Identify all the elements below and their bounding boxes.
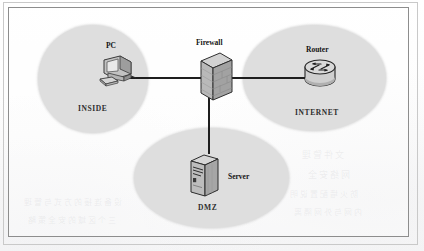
zone-label-dmz: DMZ	[198, 203, 217, 212]
zone-label-inside: INSIDE	[78, 104, 107, 113]
zone-label-internet: INTERNET	[295, 108, 339, 117]
node-label-firewall: Firewall	[196, 38, 223, 47]
diagram-page: 文件管理 网络安全 防火墙配置说明 内网与外网隔离 设备连接的方式与管理 三个区…	[0, 0, 424, 251]
node-label-server: Server	[228, 172, 249, 181]
router-cylinder-icon	[302, 58, 338, 90]
node-firewall[interactable]	[198, 51, 236, 103]
node-server[interactable]	[188, 153, 224, 199]
node-label-pc: PC	[106, 41, 116, 50]
link-pc-firewall	[129, 77, 202, 79]
link-firewall-router	[231, 77, 311, 79]
firewall-brick-wall-icon	[198, 51, 236, 103]
node-router[interactable]	[302, 58, 338, 90]
desktop-computer-icon	[98, 54, 136, 88]
node-label-router: Router	[306, 45, 329, 54]
node-pc[interactable]	[98, 54, 136, 88]
server-tower-icon	[188, 153, 224, 199]
